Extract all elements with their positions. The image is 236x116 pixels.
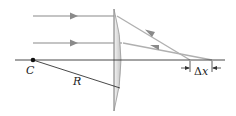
lens-diagram: C R Δx xyxy=(0,0,236,116)
delta-arrow-right-icon xyxy=(212,66,217,70)
center-label: C xyxy=(26,64,35,77)
center-point xyxy=(31,58,36,63)
delta-x-label: Δx xyxy=(194,65,209,78)
upper-ray-arrow-icon xyxy=(70,13,78,20)
delta-arrow-left-icon xyxy=(185,66,190,70)
radius-label: R xyxy=(72,75,81,88)
middle-ray-arrow-icon xyxy=(70,40,78,47)
middle-refracted-ray xyxy=(123,43,212,60)
